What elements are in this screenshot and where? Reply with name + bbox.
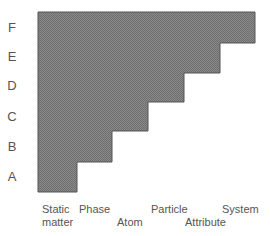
y-label-c: C bbox=[4, 109, 20, 124]
staircase-area bbox=[38, 12, 255, 192]
x-label-attribute: Attribute bbox=[185, 216, 226, 229]
y-label-d: D bbox=[4, 78, 20, 93]
y-label-e: E bbox=[4, 49, 20, 64]
staircase-shape bbox=[0, 0, 270, 236]
x-label-static: Static bbox=[42, 203, 70, 216]
x-label-particle: Particle bbox=[151, 203, 188, 216]
y-label-b: B bbox=[4, 139, 20, 154]
y-label-a: A bbox=[4, 169, 20, 184]
x-label-phase: Phase bbox=[79, 203, 110, 216]
y-label-f: F bbox=[4, 20, 20, 35]
x-label-matter: matter bbox=[42, 216, 73, 229]
x-label-system: System bbox=[222, 203, 259, 216]
x-label-atom: Atom bbox=[117, 216, 143, 229]
